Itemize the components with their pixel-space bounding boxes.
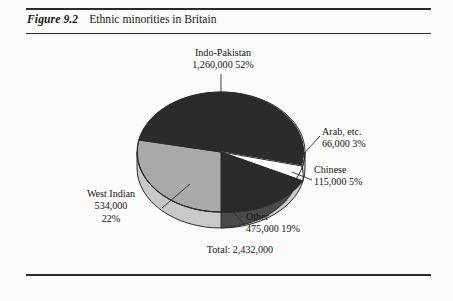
slice-label-chinese: Chinese 115,000 5%: [314, 164, 426, 189]
figure-number: Figure 9.2: [27, 13, 78, 26]
slice-label-value: 534,000: [54, 200, 168, 212]
figure-container: Figure 9.2 Ethnic minorities in Britain: [0, 0, 453, 301]
top-rule: [26, 8, 431, 10]
slice-label-percent: 22%: [54, 213, 168, 225]
slice-label-value: 115,000 5%: [314, 176, 426, 188]
figure-caption: Ethnic minorities in Britain: [89, 13, 216, 26]
slice-label-west-indian: West Indian 534,000 22%: [54, 188, 168, 225]
slice-label-name: Chinese: [314, 164, 426, 176]
slice-label-arab: Arab, etc. 66,000 3%: [322, 126, 426, 151]
chart-total-label: Total: 2,432,000: [160, 244, 320, 256]
slice-label-name: Arab, etc.: [322, 126, 426, 138]
slice-label-name: Indo-Pakistan: [156, 47, 290, 59]
slice-label-other: Other 475,000 19%: [246, 211, 366, 236]
slice-label-name: West Indian: [54, 188, 168, 200]
slice-label-value: 66,000 3%: [322, 138, 426, 150]
bottom-rule: [26, 274, 431, 276]
figure-title: Figure 9.2 Ethnic minorities in Britain: [27, 13, 216, 26]
slice-label-indo-pakistan: Indo-Pakistan 1,260,000 52%: [156, 47, 290, 72]
slice-label-value: 475,000 19%: [246, 223, 366, 235]
slice-label-name: Other: [246, 211, 366, 223]
slice-label-value: 1,260,000 52%: [156, 59, 290, 71]
title-rule: [26, 33, 431, 34]
pie-chart: Indo-Pakistan 1,260,000 52% Arab, etc. 6…: [0, 36, 453, 274]
